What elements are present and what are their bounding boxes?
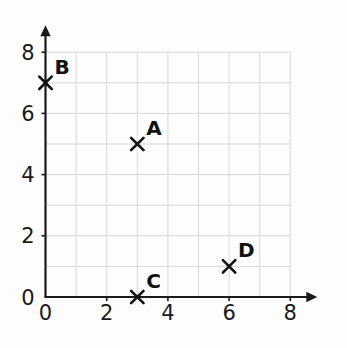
y-tick-label: 2 (21, 224, 34, 248)
coordinate-plane-svg: 02468 02468 ABCD (0, 0, 347, 348)
y-tick-label: 0 (21, 286, 34, 310)
x-tick-label: 6 (222, 301, 235, 325)
x-tick-label: 0 (39, 301, 52, 325)
x-tick-label: 8 (284, 301, 297, 325)
point-label-b: B (55, 55, 70, 79)
coordinate-plane-figure: 02468 02468 ABCD (0, 0, 347, 348)
x-tick-label: 2 (100, 301, 113, 325)
x-tick-label: 4 (161, 301, 174, 325)
point-label-a: A (146, 116, 162, 140)
y-tick-label: 8 (21, 41, 34, 65)
y-tick-label: 4 (21, 163, 34, 187)
point-label-c: C (146, 269, 161, 293)
y-tick-label: 6 (21, 102, 34, 126)
point-label-d: D (238, 238, 255, 262)
